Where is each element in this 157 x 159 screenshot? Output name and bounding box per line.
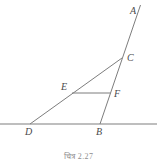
- figure-caption: चित्र 2.27: [0, 152, 157, 159]
- vertex-label-c: C: [127, 53, 134, 63]
- line-d-to-c: [30, 58, 122, 124]
- vertex-label-f: F: [114, 89, 120, 99]
- vertex-label-a: A: [130, 6, 136, 16]
- vertex-label-e: E: [61, 82, 67, 92]
- vertex-label-b: B: [96, 127, 102, 137]
- vertex-label-d: D: [25, 127, 32, 137]
- figure-canvas: [0, 0, 157, 159]
- geometry-figure: A C E F D B चित्र 2.27: [0, 0, 157, 159]
- line-b-to-a: [100, 5, 141, 124]
